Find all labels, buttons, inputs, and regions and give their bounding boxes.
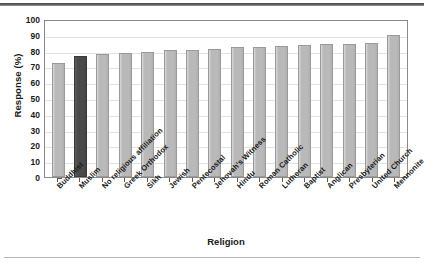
bar [298, 45, 311, 177]
x-axis-label-slot: Lutheran [276, 183, 289, 243]
bar [253, 47, 266, 177]
y-axis-tick-label: 90 [31, 31, 40, 41]
x-axis-label-slot: Mennonite [388, 183, 401, 243]
x-axis-label-slot: Pentecostal [186, 183, 199, 243]
plot-area [44, 20, 408, 178]
y-axis-tick-label: 80 [31, 47, 40, 57]
y-axis-tick-label: 0 [35, 173, 40, 183]
x-axis-label-slot: Buddhist [51, 183, 64, 243]
y-axis-tick-label: 40 [31, 110, 40, 120]
x-axis-label-slot: Anglican [321, 183, 334, 243]
y-axis-tick-label: 100 [26, 15, 40, 25]
bar-series [45, 21, 407, 177]
y-axis-tick-label: 10 [31, 157, 40, 167]
x-axis-label-slot: Roman Catholic [253, 183, 266, 243]
y-axis-tick-labels: 1009080706050403020100 [18, 8, 40, 178]
bar-chart-figure: Response (%) 1009080706050403020100 Budd… [0, 8, 424, 256]
y-axis-tick-label: 60 [31, 78, 40, 88]
x-axis-label-slot: Presbyterian [343, 183, 356, 243]
bottom-divider-rule [4, 257, 420, 258]
bar [96, 54, 109, 177]
top-divider-rule [0, 3, 424, 6]
bar [343, 44, 356, 178]
x-axis-label-slot: Sikh [141, 183, 154, 243]
x-axis-label-slot: Muslim [73, 183, 86, 243]
y-axis-tick-label: 50 [31, 94, 40, 104]
x-axis-label-slot: Jewish [163, 183, 176, 243]
bar [186, 50, 199, 177]
y-axis-tick-label: 70 [31, 62, 40, 72]
y-axis-tick-label: 30 [31, 126, 40, 136]
x-axis-label-slot: United Church [366, 183, 379, 243]
x-axis-label-slot: No religious affiliation [96, 183, 109, 243]
x-axis-title: Religion [44, 236, 408, 247]
bar [164, 50, 177, 177]
bar [320, 44, 333, 177]
x-axis-label-slot: Hindu [231, 183, 244, 243]
y-axis-tick-label: 20 [31, 141, 40, 151]
x-axis-tick-labels: BuddhistMuslimNo religious affiliationGr… [44, 183, 408, 243]
x-axis-label-slot: Baptist [298, 183, 311, 243]
x-axis-label-slot: Greek Orthodox [118, 183, 131, 243]
bar [52, 63, 65, 177]
x-axis-label-slot: Jehovah's Witness [208, 183, 221, 243]
bar [74, 56, 87, 177]
